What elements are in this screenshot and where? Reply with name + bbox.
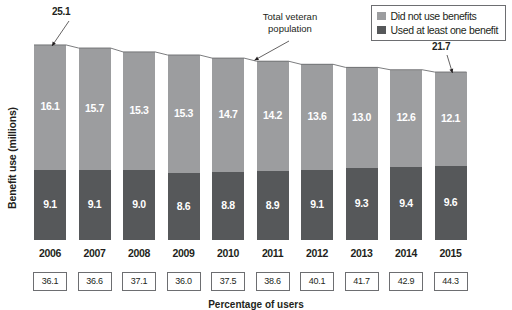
bar-segment-used-benefit-2008: 9.0 [123, 170, 155, 240]
bar-segment-did-not-use-2009: 15.3 [168, 55, 200, 173]
boxed-value-2015: 44.3 [434, 272, 468, 291]
bar-2006: 16.19.1 [34, 45, 66, 240]
x-axis-label-2011: 2011 [251, 247, 295, 259]
bar-2013: 13.09.3 [346, 67, 378, 240]
bar-value-did-not-use-2011: 14.2 [257, 109, 289, 121]
bar-value-did-not-use-2013: 13.0 [346, 111, 378, 123]
bar-segment-did-not-use-2014: 12.6 [390, 70, 422, 168]
legend-item-did-not-use: Did not use benefits [377, 9, 498, 23]
bar-segment-used-benefit-2006: 9.1 [34, 170, 66, 240]
total-population-annotation-line1: Total veteran [258, 11, 322, 23]
bar-2008: 15.39.0 [123, 52, 155, 240]
bar-value-used-benefit-2010: 8.8 [212, 199, 244, 211]
x-axis-label-2012: 2012 [295, 247, 339, 259]
bar-segment-did-not-use-2010: 14.7 [212, 58, 244, 172]
bar-segment-used-benefit-2012: 9.1 [301, 170, 333, 240]
x-axis-label-2013: 2013 [340, 247, 384, 259]
x-axis-label-2009: 2009 [162, 247, 206, 259]
x-axis-label-2006: 2006 [28, 247, 72, 259]
bar-segment-used-benefit-2014: 9.4 [390, 167, 422, 240]
bar-segment-used-benefit-2015: 9.6 [435, 166, 467, 240]
boxed-value-2014: 42.9 [389, 272, 423, 291]
x-axis-label-2008: 2008 [117, 247, 161, 259]
bar-segment-did-not-use-2006: 16.1 [34, 45, 66, 170]
bar-segment-did-not-use-2007: 15.7 [79, 48, 111, 170]
x-axis-label-2007: 2007 [73, 247, 117, 259]
bar-value-did-not-use-2007: 15.7 [79, 102, 111, 114]
bar-value-used-benefit-2008: 9.0 [123, 198, 155, 210]
bar-value-did-not-use-2010: 14.7 [212, 108, 244, 120]
legend-swatch-icon-used-benefit [377, 26, 386, 34]
bar-segment-used-benefit-2010: 8.8 [212, 172, 244, 240]
bar-2010: 14.78.8 [212, 58, 244, 240]
boxed-value-2009: 36.0 [167, 272, 201, 291]
bar-2009: 15.38.6 [168, 55, 200, 240]
bar-segment-did-not-use-2015: 12.1 [435, 72, 467, 166]
bar-value-used-benefit-2012: 9.1 [301, 198, 333, 210]
bar-2014: 12.69.4 [390, 70, 422, 240]
bar-value-did-not-use-2009: 15.3 [168, 107, 200, 119]
legend-label-used-benefit: Used at least one benefit [391, 24, 498, 36]
x-axis-label-2015: 2015 [429, 247, 473, 259]
bar-value-did-not-use-2012: 13.6 [301, 110, 333, 122]
x-axis-label-2014: 2014 [384, 247, 428, 259]
bar-value-did-not-use-2008: 15.3 [123, 104, 155, 116]
legend-item-used-benefit: Used at least one benefit [377, 23, 498, 37]
bar-2015: 12.19.6 [435, 72, 467, 240]
boxed-value-2013: 41.7 [345, 272, 379, 291]
bar-value-used-benefit-2013: 9.3 [346, 197, 378, 209]
bar-value-did-not-use-2006: 16.1 [34, 100, 66, 112]
x-axis-label-2010: 2010 [206, 247, 250, 259]
boxed-value-2010: 37.5 [211, 272, 245, 291]
bar-segment-used-benefit-2007: 9.1 [79, 170, 111, 240]
bar-value-used-benefit-2009: 8.6 [168, 200, 200, 212]
total-population-annotation: Total veteran population [258, 11, 322, 34]
bar-value-used-benefit-2011: 8.9 [257, 199, 289, 211]
bar-value-used-benefit-2014: 9.4 [390, 197, 422, 209]
boxed-value-2007: 36.6 [78, 272, 112, 291]
total-label-last: 21.7 [432, 41, 450, 52]
bar-2011: 14.28.9 [257, 61, 289, 240]
bar-segment-did-not-use-2013: 13.0 [346, 67, 378, 168]
bar-value-did-not-use-2015: 12.1 [435, 112, 467, 124]
bar-segment-used-benefit-2013: 9.3 [346, 168, 378, 240]
boxed-value-2011: 38.6 [256, 272, 290, 291]
bar-segment-used-benefit-2009: 8.6 [168, 173, 200, 240]
bar-segment-did-not-use-2008: 15.3 [123, 52, 155, 170]
bar-segment-did-not-use-2012: 13.6 [301, 64, 333, 169]
legend-label-did-not-use: Did not use benefits [391, 10, 477, 22]
bar-value-used-benefit-2015: 9.6 [435, 196, 467, 208]
bar-segment-did-not-use-2011: 14.2 [257, 61, 289, 171]
legend-swatch-icon-did-not-use [377, 12, 386, 20]
boxed-value-2008: 37.1 [122, 272, 156, 291]
boxed-value-2006: 36.1 [33, 272, 67, 291]
bar-2012: 13.69.1 [301, 64, 333, 240]
bar-segment-used-benefit-2011: 8.9 [257, 171, 289, 240]
total-population-annotation-line2: population [258, 23, 322, 35]
boxed-value-2012: 40.1 [300, 272, 334, 291]
total-label-first: 25.1 [52, 6, 70, 17]
bar-2007: 15.79.1 [79, 48, 111, 240]
bar-value-did-not-use-2014: 12.6 [390, 111, 422, 123]
x-axis-caption: Percentage of users [0, 299, 512, 310]
bar-value-used-benefit-2007: 9.1 [79, 198, 111, 210]
legend: Did not use benefits Used at least one b… [371, 5, 506, 41]
bar-value-used-benefit-2006: 9.1 [34, 198, 66, 210]
